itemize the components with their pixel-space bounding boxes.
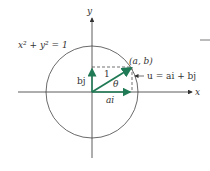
y-axis-label: y [86, 6, 93, 16]
one-label: 1 [104, 69, 110, 79]
equation-label: x² + y² = 1 [18, 40, 68, 50]
vector-u [92, 68, 131, 92]
bj-label: bj [77, 76, 86, 86]
x-axis-label: x [195, 87, 200, 97]
theta-label: θ [113, 79, 119, 89]
point-label: (a, b) [129, 56, 153, 66]
vector-u-label: u = ai + bj [147, 71, 196, 81]
unit-circle-diagram: x² + y² = 1 y x (a, b) u = ai + bj bj ai… [0, 0, 210, 171]
ai-label: ai [106, 95, 114, 105]
